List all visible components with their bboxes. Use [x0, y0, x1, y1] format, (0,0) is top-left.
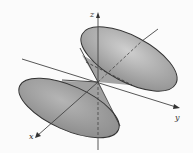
y-axis-arrow-icon	[173, 104, 180, 109]
x-axis-label: x	[29, 132, 34, 141]
z-axis-arrow-icon	[96, 12, 100, 18]
x-axis-back	[142, 29, 158, 41]
double-cone-diagram: z x y	[0, 0, 193, 153]
y-axis-label: y	[174, 113, 180, 122]
z-axis-label: z	[89, 10, 95, 19]
